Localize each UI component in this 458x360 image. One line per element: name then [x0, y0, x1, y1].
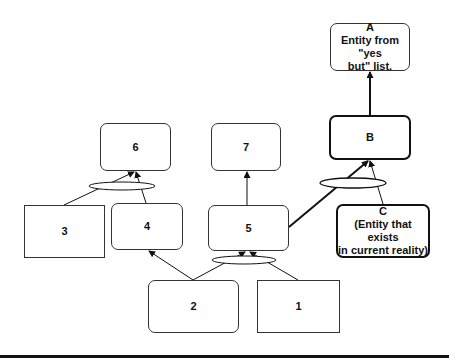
- node-label: 6: [132, 141, 138, 154]
- node-label: but" list.: [348, 60, 392, 73]
- and-ellipse-b: [320, 178, 386, 188]
- node-b: B: [329, 115, 411, 160]
- node-label: 2: [190, 300, 196, 313]
- node-label: B: [366, 131, 374, 144]
- and-ellipse-5: [212, 256, 276, 264]
- node-3: 3: [24, 205, 105, 258]
- node-c: C(Entity that existsin current reality): [336, 204, 430, 258]
- node-5: 5: [208, 205, 289, 251]
- node-7: 7: [211, 123, 281, 171]
- node-label: Entity from "yes: [331, 34, 409, 60]
- node-2: 2: [148, 280, 239, 333]
- node-a: AEntity from "yesbut" list.: [330, 23, 410, 71]
- node-label: C: [379, 205, 387, 218]
- node-6: 6: [100, 123, 171, 171]
- node-label: in current reality): [338, 244, 428, 257]
- node-1: 1: [257, 280, 340, 333]
- node-label: 7: [243, 141, 249, 154]
- node-label: 3: [61, 225, 67, 238]
- node-label: 4: [144, 220, 150, 233]
- node-label: (Entity that exists: [338, 218, 428, 244]
- node-label: 5: [245, 222, 251, 235]
- node-4: 4: [111, 203, 183, 250]
- node-label: A: [366, 21, 374, 34]
- arrow-2-to-4: [149, 251, 193, 280]
- and-ellipse-6: [89, 182, 155, 190]
- node-label: 1: [295, 300, 301, 313]
- bottom-rule-divider: [0, 355, 449, 358]
